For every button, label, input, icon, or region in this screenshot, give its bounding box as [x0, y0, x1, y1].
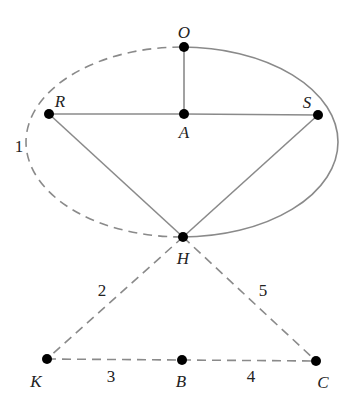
ellipse-solid-arc	[182, 47, 338, 237]
edge-S-H	[183, 115, 318, 237]
node-label-C: C	[317, 374, 328, 391]
edge-R-H	[49, 114, 183, 237]
node-S	[313, 110, 323, 120]
node-label-S: S	[303, 94, 312, 111]
edge-label-3: 3	[107, 368, 116, 385]
node-label-O: O	[178, 24, 190, 41]
edge-label-2: 2	[98, 282, 107, 299]
edge-label-1: 1	[15, 138, 24, 155]
edge-label-5: 5	[259, 282, 268, 299]
node-K	[42, 354, 52, 364]
edge-H-K	[47, 237, 183, 359]
edge-A-S	[184, 114, 318, 115]
edge-B-C	[182, 360, 316, 361]
node-label-B: B	[176, 373, 186, 390]
node-C	[311, 356, 321, 366]
node-B	[177, 355, 187, 365]
node-H	[178, 232, 188, 242]
node-label-R: R	[55, 93, 65, 110]
node-label-K: K	[30, 373, 41, 390]
node-R	[44, 109, 54, 119]
edge-H-C	[183, 237, 316, 361]
node-A	[179, 109, 189, 119]
ellipse-dashed-arc-edge-1	[26, 47, 182, 237]
node-O	[179, 42, 189, 52]
node-label-H: H	[177, 250, 189, 267]
node-label-A: A	[179, 124, 189, 141]
diagram-drawing	[0, 0, 360, 409]
edge-label-4: 4	[247, 368, 256, 385]
edge-K-B	[47, 359, 182, 360]
graph-diagram: ORASHKBC12534	[0, 0, 360, 409]
